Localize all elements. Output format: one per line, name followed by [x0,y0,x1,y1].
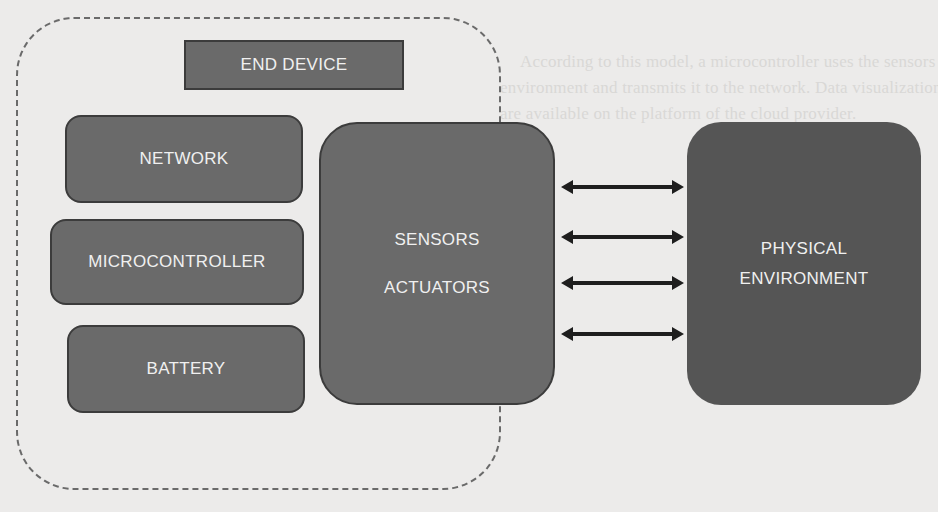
end-device-label-box: END DEVICE [184,40,404,90]
microcontroller-label: MICROCONTROLLER [88,252,265,272]
microcontroller-box: MICROCONTROLLER [50,219,304,305]
bidirectional-arrow-icon [561,327,684,341]
sensors-label: SENSORS [394,230,479,250]
physical-environment-box: PHYSICAL ENVIRONMENT [687,122,921,405]
actuators-label: ACTUATORS [384,278,490,298]
network-label: NETWORK [140,149,229,169]
network-box: NETWORK [65,115,303,203]
background-text-line: According to this model, a microcontroll… [520,52,938,72]
background-text-line: are available on the platform of the clo… [500,104,856,124]
background-text-line: environment and transmits it to the netw… [500,78,938,98]
battery-label: BATTERY [147,359,226,379]
sensors-actuators-box: SENSORS ACTUATORS [319,122,555,405]
bidirectional-arrow-icon [561,230,684,244]
bidirectional-arrow-icon [561,180,684,194]
environment-label: ENVIRONMENT [740,269,869,289]
bidirectional-arrow-icon [561,276,684,290]
physical-label: PHYSICAL [761,239,848,259]
battery-box: BATTERY [67,325,305,413]
end-device-label: END DEVICE [241,55,348,75]
